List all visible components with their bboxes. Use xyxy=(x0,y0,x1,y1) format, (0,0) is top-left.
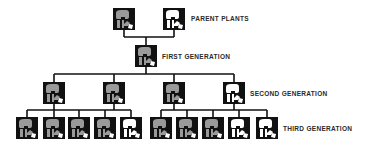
plant-third-7-grey-flower-icon xyxy=(176,117,198,139)
label-first-generation: FIRST GENERATION xyxy=(162,53,230,60)
plant-third-10-white-flower-icon xyxy=(256,117,278,139)
plant-third-5-white-flower-icon xyxy=(120,117,142,139)
label-third-generation: THIRD GENERATION xyxy=(283,125,352,132)
plant-third-6-grey-flower-icon xyxy=(150,117,172,139)
plant-third-4-grey-flower-icon xyxy=(94,117,116,139)
plant-second-4-white-flower-icon xyxy=(223,82,245,104)
plant-third-1-grey-flower-icon xyxy=(16,117,38,139)
plant-third-3-grey-flower-icon xyxy=(68,117,90,139)
plant-parent-2-white-flower-icon xyxy=(163,8,185,30)
label-second-generation: SECOND GENERATION xyxy=(250,90,328,97)
plant-second-1-grey-flower-icon xyxy=(43,82,65,104)
plant-parent-1-grey-flower-icon xyxy=(113,8,135,30)
plant-second-3-grey-flower-icon xyxy=(163,82,185,104)
plant-first-1-grey-flower-icon xyxy=(135,45,157,67)
plant-third-8-grey-flower-icon xyxy=(202,117,224,139)
label-parent-plants: PARENT PLANTS xyxy=(191,15,249,22)
plant-third-9-white-flower-icon xyxy=(228,117,250,139)
plant-third-2-grey-flower-icon xyxy=(43,117,65,139)
plant-second-2-grey-flower-icon xyxy=(103,82,125,104)
